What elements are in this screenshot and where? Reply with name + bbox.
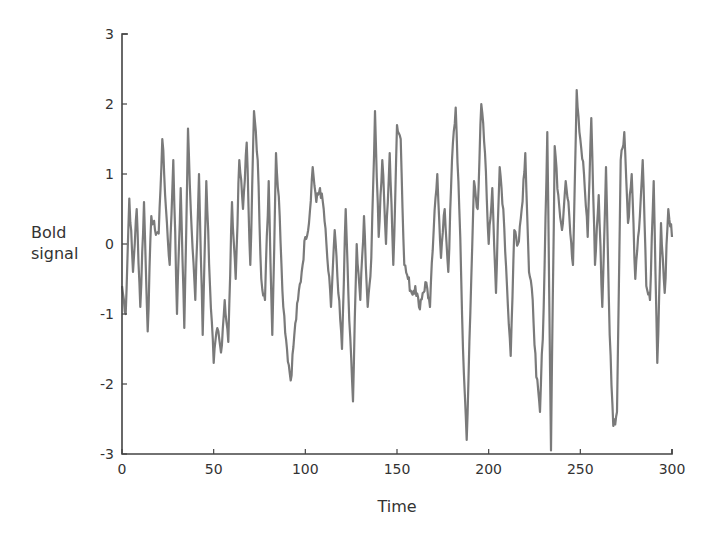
x-tick-label: 100 (292, 461, 319, 477)
y-tick-label: 2 (105, 96, 114, 112)
y-tick-label: 3 (105, 26, 114, 42)
x-tick-label: 200 (475, 461, 502, 477)
y-axis-label-line1: Bold (31, 222, 78, 243)
x-tick-label: 0 (118, 461, 127, 477)
x-tick-label: 250 (567, 461, 594, 477)
y-axis-label-line2: signal (31, 243, 78, 264)
y-tick-label: 0 (105, 236, 114, 252)
y-tick-label: -2 (100, 376, 114, 392)
x-tick-label: 300 (659, 461, 686, 477)
x-tick-label: 50 (205, 461, 223, 477)
x-axis-label: Time (376, 497, 416, 516)
bold-signal-chart: -3-2-10123050100150200250300 Time (0, 0, 717, 543)
y-tick-label: 1 (105, 166, 114, 182)
y-tick-label: -1 (100, 306, 114, 322)
x-tick-label: 150 (384, 461, 411, 477)
y-tick-label: -3 (100, 446, 114, 462)
y-axis-label: Bold signal (31, 222, 78, 264)
signal-line (122, 90, 672, 451)
